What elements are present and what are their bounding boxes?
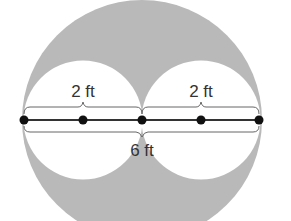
- point-1: [20, 116, 29, 125]
- label-left-radius: 2 ft: [71, 82, 95, 101]
- point-4: [197, 116, 206, 125]
- label-diameter: 6 ft: [130, 141, 154, 160]
- diagram-canvas: 2 ft 2 ft 6 ft: [0, 0, 291, 221]
- point-2: [79, 116, 88, 125]
- label-right-radius: 2 ft: [189, 82, 213, 101]
- point-5: [255, 116, 264, 125]
- point-3: [138, 116, 147, 125]
